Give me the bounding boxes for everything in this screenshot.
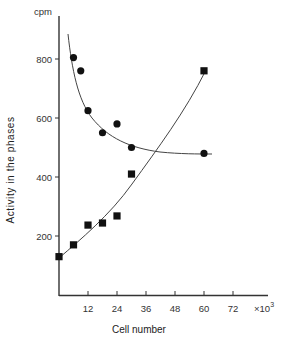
circle-data-point <box>99 129 106 136</box>
circle-data-point <box>70 54 77 61</box>
x-tick-label: 72 <box>228 303 239 314</box>
y-tick-label: 400 <box>36 172 52 183</box>
circle-data-point <box>200 150 207 157</box>
x-multiplier-exponent: 3 <box>270 301 274 308</box>
square-data-point <box>99 219 106 226</box>
circle-data-point <box>128 144 135 151</box>
y-axis-title: Activity in the phases <box>5 116 16 223</box>
square-data-point <box>84 221 91 228</box>
y-ticks: 200400600800 <box>36 54 59 242</box>
x-tick-label: 36 <box>141 303 152 314</box>
square-data-point <box>70 241 77 248</box>
y-tick-label: 800 <box>36 54 52 65</box>
y-tick-label: 600 <box>36 113 52 124</box>
circle-data-point <box>77 67 84 74</box>
square-data-point <box>128 170 135 177</box>
circle-data-point <box>113 120 120 127</box>
circle-series-points <box>70 54 208 157</box>
square-data-point <box>55 253 62 260</box>
x-tick-label: 12 <box>83 303 94 314</box>
square-data-point <box>200 67 207 74</box>
square-series-points <box>55 67 207 260</box>
chart: 200400600800 122436486072 cpm ×103 Cell … <box>0 0 282 339</box>
square-data-point <box>113 212 120 219</box>
x-tick-label: 48 <box>170 303 181 314</box>
x-tick-label: 24 <box>112 303 123 314</box>
x-ticks: 122436486072 <box>83 291 239 314</box>
y-tick-label: 200 <box>36 231 52 242</box>
x-tick-label: 60 <box>199 303 210 314</box>
circle-series-fit-curve <box>68 34 212 154</box>
x-axis-title: Cell number <box>112 324 167 335</box>
x-multiplier-label: ×103 <box>254 301 274 314</box>
y-unit-label: cpm <box>34 6 52 17</box>
circle-data-point <box>84 107 91 114</box>
